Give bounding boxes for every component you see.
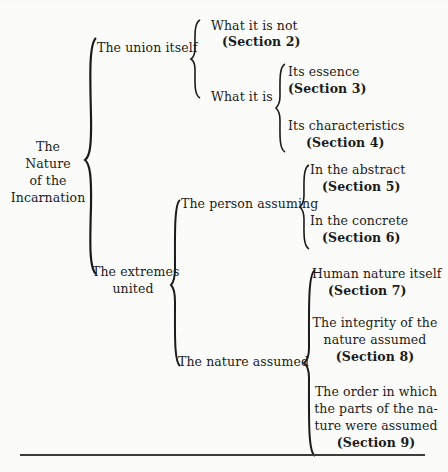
order-line-2: the parts of the na-	[308, 401, 444, 417]
person-label: The person assuming	[181, 196, 318, 212]
abstract-text: In the abstract	[310, 162, 405, 178]
section-8: (Section 8)	[310, 349, 440, 365]
section-3: (Section 3)	[288, 81, 367, 97]
order-line-1: The order in which	[308, 384, 444, 400]
is-label: What it is	[211, 89, 273, 105]
integrity-line-1: The integrity of the	[310, 315, 440, 331]
not-text: What it is not	[211, 18, 298, 34]
root-line: Nature	[8, 156, 88, 172]
extremes-label-1: The extremes	[92, 264, 174, 280]
extremes-label-2: united	[92, 281, 174, 297]
bottom-rule-divider	[20, 454, 425, 456]
section-6: (Section 6)	[322, 230, 401, 246]
union-label: The union itself	[97, 40, 197, 56]
section-9: (Section 9)	[308, 435, 444, 451]
section-4: (Section 4)	[306, 135, 385, 151]
essence-text: Its essence	[288, 64, 360, 80]
main-brace-icon	[84, 36, 98, 276]
root-line: Incarnation	[8, 190, 88, 206]
clipped-running-header	[0, 0, 448, 2]
root-line: of the	[8, 173, 88, 189]
concrete-text: In the concrete	[310, 213, 408, 229]
human-text: Human nature itself	[312, 266, 442, 282]
root-line: The	[8, 139, 88, 155]
section-7: (Section 7)	[328, 283, 407, 299]
section-5: (Section 5)	[322, 179, 401, 195]
characteristics-text: Its characteristics	[288, 118, 404, 134]
nature-label: The nature assumed	[178, 354, 309, 370]
order-line-3: ture were assumed	[308, 418, 444, 434]
extremes-brace-icon	[170, 198, 182, 368]
is-brace-icon	[275, 62, 287, 154]
section-2: (Section 2)	[222, 34, 301, 50]
union-brace-icon	[190, 18, 202, 100]
integrity-line-2: nature assumed	[310, 332, 440, 348]
